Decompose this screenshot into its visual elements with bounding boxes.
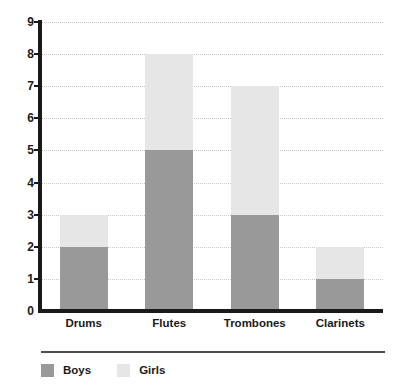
chart-legend: BoysGirls	[41, 364, 191, 377]
legend-label: Girls	[139, 365, 165, 377]
bar-group[interactable]	[145, 22, 193, 311]
y-axis-tick-label: 6	[12, 112, 34, 124]
y-axis-tick-label: 8	[12, 48, 34, 60]
legend-swatch-icon	[41, 364, 54, 377]
x-axis-category-label: Drums	[41, 317, 127, 330]
legend-entry[interactable]: Girls	[117, 364, 165, 377]
bar-group[interactable]	[316, 22, 364, 311]
legend-label: Boys	[63, 365, 91, 377]
x-axis-category-label: Flutes	[127, 317, 213, 330]
bar-segment-girls[interactable]	[60, 215, 108, 247]
plot-area	[41, 22, 383, 311]
y-axis-tick-label: 9	[12, 16, 34, 28]
x-axis-category-label: Clarinets	[298, 317, 384, 330]
bar-group[interactable]	[231, 22, 279, 311]
bar-segment-boys[interactable]	[60, 247, 108, 311]
y-axis-labels: 0123456789	[8, 0, 34, 390]
bar-segment-girls[interactable]	[145, 54, 193, 150]
bar-segment-boys[interactable]	[316, 279, 364, 311]
bar-group[interactable]	[60, 22, 108, 311]
bar-segment-girls[interactable]	[231, 86, 279, 214]
y-axis-tick-label: 5	[12, 144, 34, 156]
legend-divider	[41, 351, 385, 353]
bar-segment-boys[interactable]	[145, 150, 193, 311]
x-axis-category-label: Trombones	[212, 317, 298, 330]
y-axis-tick-label: 4	[12, 177, 34, 189]
y-axis-tick-label: 1	[12, 273, 34, 285]
y-axis-tick-label: 3	[12, 209, 34, 221]
legend-swatch-icon	[117, 364, 130, 377]
bar-segment-girls[interactable]	[316, 247, 364, 279]
y-axis-tick-label: 7	[12, 80, 34, 92]
y-axis-tick-label: 0	[12, 305, 34, 317]
bar-segment-boys[interactable]	[231, 215, 279, 311]
y-axis-tick-label: 2	[12, 241, 34, 253]
stacked-bar-chart: 0123456789 DrumsFlutesTrombonesClarinets…	[0, 0, 396, 390]
x-axis-line	[38, 309, 383, 313]
y-axis-line	[38, 20, 42, 313]
legend-entry[interactable]: Boys	[41, 364, 91, 377]
